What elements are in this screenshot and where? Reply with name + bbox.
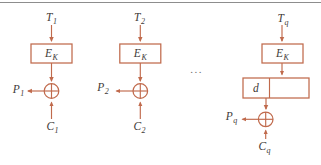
label-d-selector: d [253, 83, 259, 95]
diagram-svg [0, 0, 321, 165]
label-ek-q: EK [276, 48, 289, 60]
ellipsis: ... [190, 63, 203, 75]
label-c2: C2 [133, 121, 145, 133]
label-p1: P1 [13, 84, 25, 96]
label-ek-2: EK [134, 48, 147, 60]
label-c1: C1 [46, 121, 58, 133]
block-1-wiring [28, 25, 72, 119]
figure-canvas: T1 EK P1 C1 T2 EK P2 C2 ... Tq EK d Pq C… [0, 0, 321, 165]
block-2-wiring [117, 25, 161, 119]
label-t1: T1 [46, 12, 57, 24]
label-p2: P2 [97, 82, 109, 94]
label-pq: Pq [226, 111, 238, 123]
label-cq: Cq [258, 141, 270, 153]
label-tq: Tq [278, 13, 289, 25]
label-t2: T2 [134, 12, 145, 24]
label-ek-1: EK [45, 48, 58, 60]
